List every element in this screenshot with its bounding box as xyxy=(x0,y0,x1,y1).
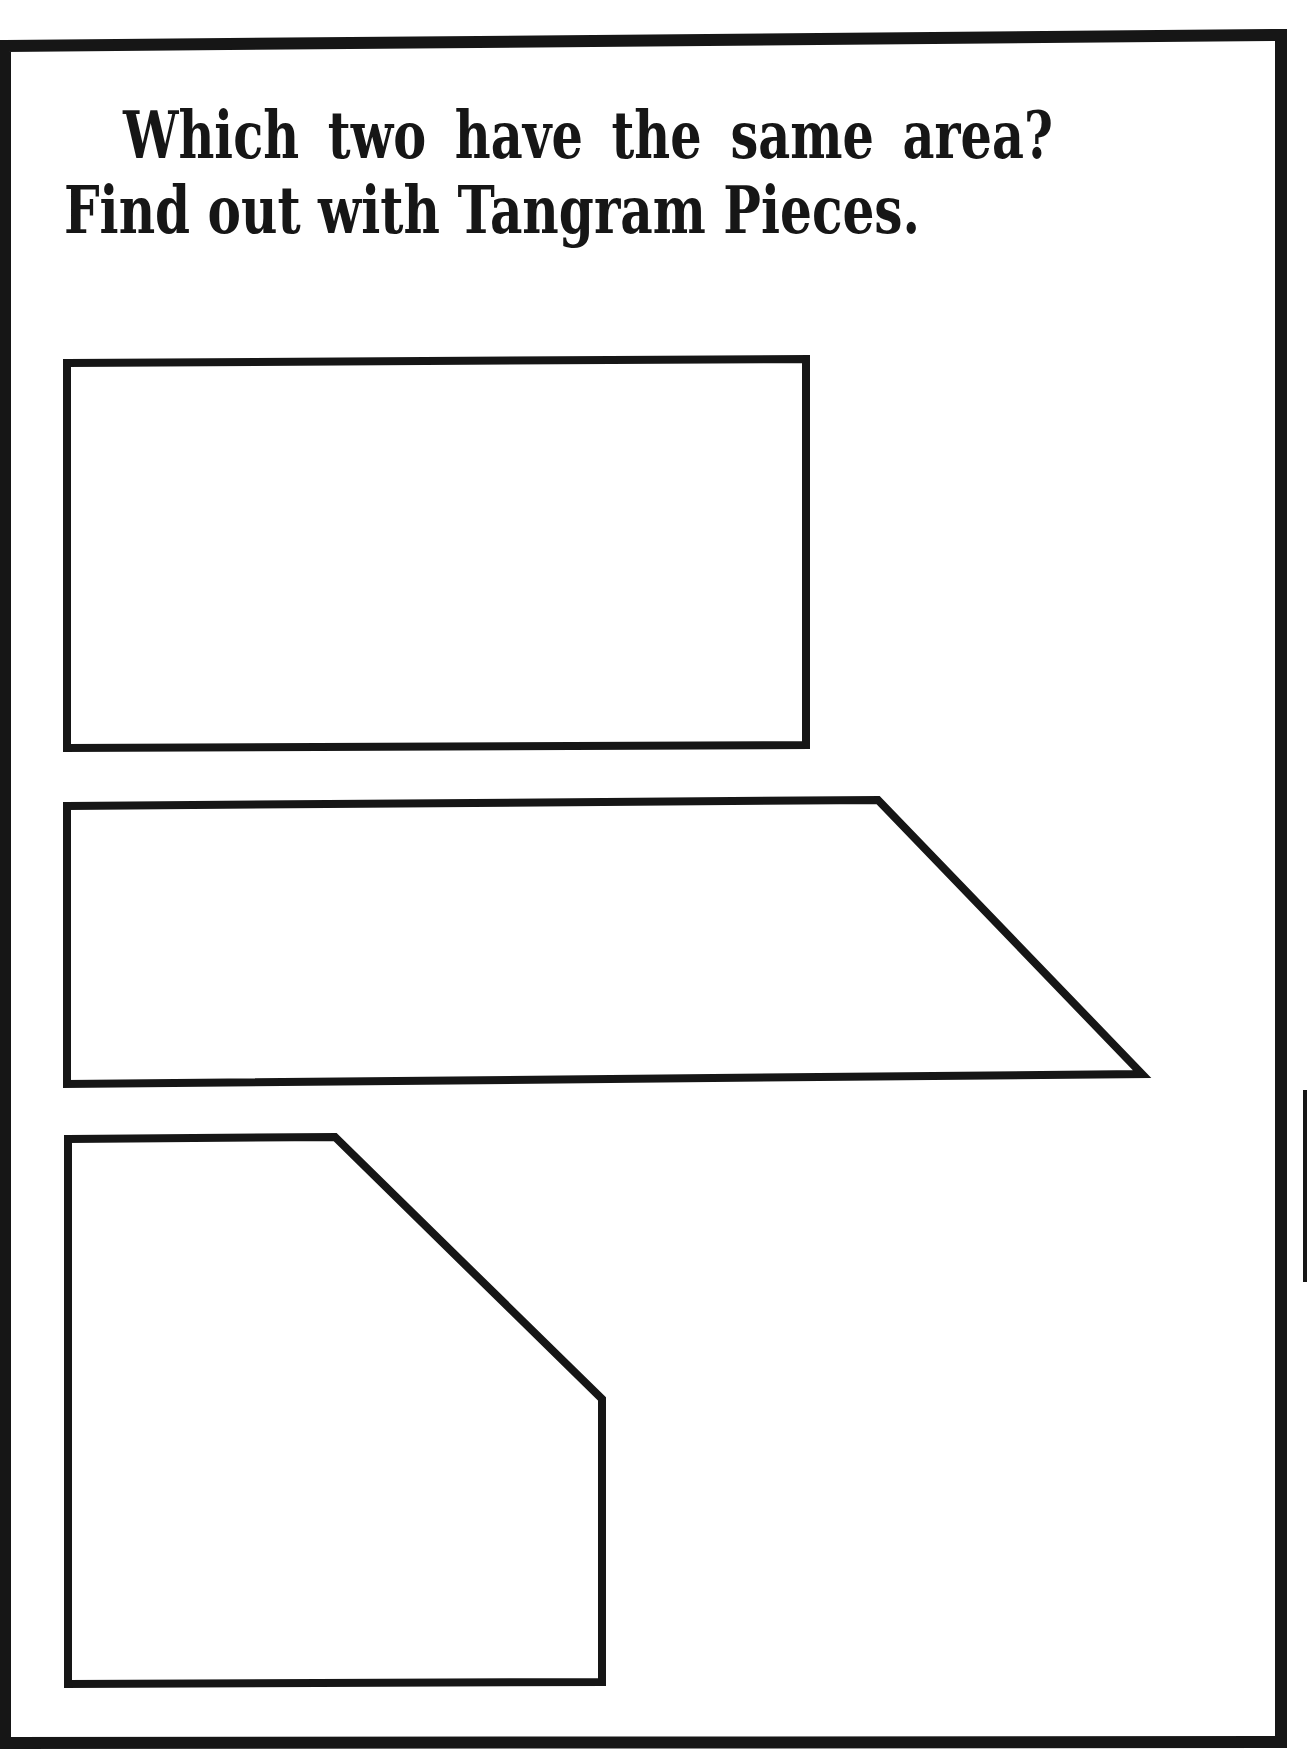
title-instruction: Find out with Tangram Pieces. xyxy=(64,178,920,243)
shape-pentagon xyxy=(68,1137,602,1684)
edge-mark xyxy=(1303,1090,1307,1282)
title-question: Which two have the same area? xyxy=(123,103,1053,168)
shape-rectangle xyxy=(67,359,806,748)
shape-trapezoid xyxy=(67,800,1142,1084)
worksheet-canvas xyxy=(0,0,1307,1749)
page-border xyxy=(5,35,1281,1743)
